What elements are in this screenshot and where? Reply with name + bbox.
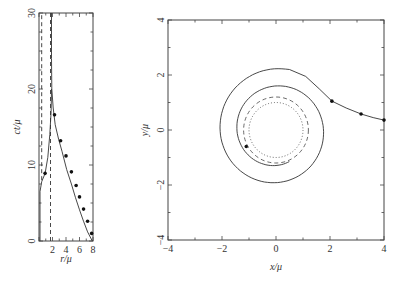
right-ytick-label: 2 xyxy=(155,73,166,78)
right-xtick-label: −2 xyxy=(217,243,228,254)
dotted-circle xyxy=(249,103,303,158)
left-data-point xyxy=(64,154,68,158)
left-data-point xyxy=(43,172,47,176)
right-xtick-label: 2 xyxy=(328,243,333,254)
right-plot-frame xyxy=(168,20,384,240)
left-ytick-label: 0 xyxy=(26,239,37,244)
left-xlabel: r/μ xyxy=(60,253,72,264)
right-ylabel: y/μ xyxy=(139,124,150,137)
right-xtick-label: 0 xyxy=(274,243,279,254)
left-data-point xyxy=(70,170,74,174)
left-plot-frame xyxy=(39,13,93,241)
figure: 24680102030 r/μ ct/μ −4−2024−4−2024 x/μ … xyxy=(0,0,399,286)
left-data-point xyxy=(74,184,78,188)
left-data-point xyxy=(78,195,82,199)
right-ytick-label: −2 xyxy=(155,180,166,191)
left-xtick-label: 8 xyxy=(91,244,96,255)
right-xlabel: x/μ xyxy=(269,261,282,272)
left-data-point xyxy=(90,232,94,236)
left-ytick-label: 20 xyxy=(26,84,37,94)
right-ytick-label: 4 xyxy=(155,18,166,23)
right-ytick-label: 0 xyxy=(155,128,166,133)
right-panel: −4−2024−4−2024 x/μ y/μ xyxy=(139,18,387,273)
right-data-point xyxy=(330,99,334,103)
left-panel: 24680102030 r/μ ct/μ xyxy=(11,8,96,264)
right-series xyxy=(220,69,386,183)
left-series xyxy=(40,13,93,241)
left-ytick-label: 10 xyxy=(26,160,37,170)
orbit-curve xyxy=(220,69,384,183)
right-tick-labels: −4−2024−4−2024 xyxy=(155,18,387,255)
left-xtick-label: 2 xyxy=(50,244,55,255)
left-ticks xyxy=(39,13,93,241)
left-ylabel: ct/μ xyxy=(11,119,22,134)
dashed-circle xyxy=(244,97,309,163)
left-data-point xyxy=(59,139,63,143)
left-xtick-label: 6 xyxy=(77,244,82,255)
left-series-line xyxy=(52,13,93,241)
right-ticks xyxy=(168,20,384,240)
left-ytick-label: 30 xyxy=(26,8,37,18)
left-data-point xyxy=(53,113,57,117)
right-data-point xyxy=(382,118,386,122)
right-ytick-label: −4 xyxy=(155,235,166,246)
right-data-point xyxy=(359,112,363,116)
left-data-point xyxy=(82,207,86,211)
left-data-point xyxy=(86,219,90,223)
right-xtick-label: 4 xyxy=(382,243,387,254)
left-tick-labels: 24680102030 xyxy=(26,8,96,255)
